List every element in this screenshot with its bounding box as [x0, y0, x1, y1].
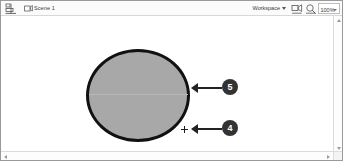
- horizontal-scrollbar[interactable]: [1, 151, 333, 160]
- scene-icon: [24, 4, 33, 13]
- annotation-badge: 5: [222, 79, 238, 95]
- workspace-switcher-label[interactable]: Workspace: [253, 4, 280, 13]
- zoom-level-dropdown[interactable]: 100%: [318, 3, 340, 14]
- vertical-scrollbar[interactable]: [333, 16, 342, 153]
- arrow-line: [197, 128, 222, 130]
- scroll-left-arrow-icon[interactable]: [4, 155, 7, 159]
- arrow-line: [197, 87, 222, 89]
- scroll-right-arrow-icon[interactable]: [327, 155, 330, 159]
- scene-name-label[interactable]: Scene 1: [34, 4, 55, 13]
- chevron-down-icon[interactable]: [333, 9, 337, 11]
- scroll-down-arrow-icon[interactable]: [337, 147, 341, 150]
- edit-scene-icon[interactable]: [291, 3, 303, 15]
- ellipse-seam-line: [89, 94, 188, 95]
- registration-point-crosshair: [181, 126, 188, 133]
- annotation-callout-5: 5: [191, 79, 238, 95]
- back-to-scene-icon[interactable]: [5, 3, 17, 15]
- annotation-callout-4: 4: [191, 120, 238, 136]
- annotation-badge: 4: [222, 120, 238, 136]
- stage-canvas[interactable]: 5 4: [1, 16, 333, 153]
- ellipse-shape[interactable]: [86, 49, 190, 142]
- chevron-down-icon[interactable]: [282, 7, 286, 10]
- animate-canvas-window: Scene 1 Workspace 100%: [0, 0, 343, 161]
- edit-symbol-icon[interactable]: [305, 3, 317, 15]
- edit-bar: Scene 1 Workspace 100%: [1, 1, 342, 16]
- scrollbar-corner: [333, 151, 342, 160]
- scroll-up-arrow-icon[interactable]: [337, 19, 341, 22]
